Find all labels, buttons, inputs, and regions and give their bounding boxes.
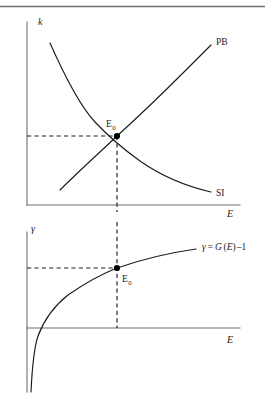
curve-gamma-equation-label: γ=G(E)–1: [202, 242, 246, 253]
upper-x-axis-label: E: [226, 208, 233, 219]
curve-pb-label: PB: [216, 37, 228, 47]
lower-panel: E0 γ E γ=G(E)–1: [27, 222, 246, 392]
economics-figure: E0 k E PB SI E0 γ E: [0, 0, 265, 401]
equation-g-symbol: G: [215, 242, 222, 252]
equation-gamma-symbol: γ: [202, 242, 206, 252]
upper-panel: E0 k E PB SI: [27, 16, 240, 219]
figure-container: E0 k E PB SI E0 γ E: [0, 0, 265, 401]
curve-si-label: SI: [216, 188, 224, 198]
lower-x-axis-label: E: [226, 334, 233, 345]
upper-y-axis-label: k: [38, 16, 43, 27]
curve-si: [50, 43, 211, 192]
upper-equilibrium-point: [114, 133, 120, 139]
curve-gamma: [31, 249, 196, 392]
equation-close-paren: ): [232, 242, 235, 253]
equation-minus-one: –1: [236, 242, 247, 252]
equation-equals-symbol: =: [208, 242, 213, 252]
upper-equilibrium-label-sub: 0: [112, 124, 116, 131]
upper-equilibrium-label-main: E: [106, 119, 112, 129]
curve-pb: [60, 45, 211, 190]
lower-equilibrium-point: [114, 265, 120, 271]
lower-equilibrium-label-sub: 0: [128, 279, 132, 286]
lower-y-axis-label: γ: [31, 223, 36, 234]
lower-equilibrium-label: E0: [122, 274, 132, 286]
upper-equilibrium-label: E0: [106, 119, 116, 131]
lower-equilibrium-label-main: E: [122, 274, 128, 284]
